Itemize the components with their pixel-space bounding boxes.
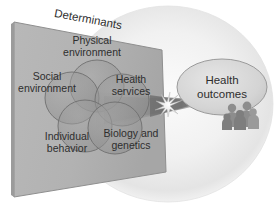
label-biology-and-genetics-line2: genetics	[111, 139, 150, 151]
health-outcomes-label-line1: Health	[205, 74, 238, 86]
diagram-canvas: Determinants Physical environment Social…	[0, 0, 277, 208]
health-determinants-diagram: Determinants Physical environment Social…	[0, 0, 277, 208]
label-social-environment-line2: environment	[18, 82, 76, 94]
label-biology-and-genetics-line1: Biology and	[104, 127, 159, 139]
plane-title: Determinants	[53, 7, 123, 31]
health-outcomes-ellipse	[177, 59, 267, 115]
health-outcomes-node: Health outcomes	[177, 59, 267, 115]
label-social-environment-line1: Social	[33, 70, 62, 82]
label-health-services-line1: Health	[116, 73, 147, 85]
health-outcomes-label-line2: outcomes	[197, 88, 247, 100]
label-physical-environment-line1: Physical	[72, 34, 111, 46]
label-health-services-line2: services	[112, 85, 151, 97]
label-individual-behavior-line2: behavior	[47, 142, 88, 154]
label-individual-behavior-line1: Individual	[45, 130, 89, 142]
label-physical-environment-line2: environment	[63, 46, 121, 58]
